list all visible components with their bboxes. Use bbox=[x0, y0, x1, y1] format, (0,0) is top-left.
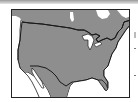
north-america-map bbox=[12, 10, 130, 98]
map-frame bbox=[11, 9, 130, 98]
top-edge-strip bbox=[0, 0, 138, 4]
edge-tick bbox=[134, 48, 136, 49]
edge-tick bbox=[134, 75, 136, 76]
edge-mark bbox=[134, 32, 136, 38]
